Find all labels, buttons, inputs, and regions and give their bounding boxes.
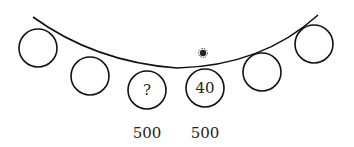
circle-3-label: ? — [143, 81, 151, 99]
circle-1 — [19, 29, 57, 67]
under-label-1: 500 — [133, 124, 162, 142]
hanging-circles-diagram: ? 40 500 500 — [0, 0, 354, 147]
string-curve — [33, 15, 318, 68]
circle-4-label: 40 — [195, 79, 214, 97]
under-label-2: 500 — [191, 124, 220, 142]
circle-6 — [295, 25, 333, 63]
marker-dot-icon — [200, 50, 206, 56]
circle-5 — [243, 53, 281, 91]
circle-4: 40 — [186, 69, 224, 107]
circle-2 — [71, 57, 109, 95]
circle-3: ? — [128, 71, 166, 109]
